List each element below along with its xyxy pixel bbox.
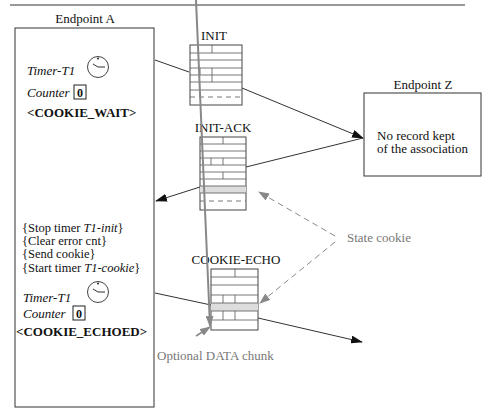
- state-label: <COOKIE_WAIT>: [27, 105, 136, 120]
- cookie-echo-packet: COOKIE-ECHO: [192, 252, 281, 330]
- init-ack-arrow-segment-a: [246, 138, 363, 167]
- cookie-echo-label: COOKIE-ECHO: [192, 252, 281, 267]
- endpoint-z-title: Endpoint Z: [394, 77, 453, 92]
- echoed-cookie-field: [211, 303, 258, 311]
- counter-label: Counter: [27, 85, 71, 100]
- action-clear-error: {Clear error cnt}: [22, 234, 107, 248]
- init-arrow: [242, 88, 363, 138]
- action-send-cookie: {Send cookie}: [22, 247, 95, 261]
- cookie-echo-arrow-segment-a: [155, 293, 211, 305]
- clock-icon: [88, 57, 109, 78]
- init-ack-label: INIT-ACK: [195, 120, 252, 135]
- endpoint-a-actions: {Stop timer T1-init} {Clear error cnt} {…: [22, 221, 140, 275]
- optional-data-pointer-line: [196, 327, 210, 336]
- endpoint-a-state-wait: Timer-T1 Counter 0 <COOKIE_WAIT>: [27, 57, 136, 121]
- action-start-timer: {Start timer T1-cookie}: [22, 261, 140, 275]
- counter-label: Counter: [23, 306, 67, 321]
- endpoint-a: Endpoint A Timer-T1 Counter 0 <COOKIE_WA…: [15, 11, 154, 407]
- endpoint-a-title: Endpoint A: [55, 11, 115, 26]
- endpoint-a-state-echoed: Timer-T1 Counter 0 <COOKIE_ECHOED>: [16, 282, 147, 340]
- init-label: INIT: [201, 28, 227, 43]
- timer-label: Timer-T1: [27, 63, 75, 78]
- state-cookie-annotation: State cookie: [259, 192, 411, 303]
- state-label: <COOKIE_ECHOED>: [16, 324, 147, 339]
- state-cookie-field: [200, 186, 246, 193]
- init-arrow-segment-a: [155, 60, 189, 72]
- cookie-echo-arrow: [258, 318, 362, 342]
- optional-data-label: Optional DATA chunk: [157, 348, 274, 363]
- clock-icon: [88, 282, 109, 303]
- endpoint-z: Endpoint Z No record kept of the associa…: [364, 77, 481, 176]
- state-cookie-label: State cookie: [347, 230, 411, 245]
- sctp-handshake-diagram: Endpoint A Timer-T1 Counter 0 <COOKIE_WA…: [0, 0, 491, 415]
- state-cookie-pointer-upper: [259, 192, 335, 236]
- endpoint-z-note-line2: of the association: [377, 141, 468, 156]
- action-stop-timer: {Stop timer T1-init}: [22, 221, 124, 235]
- timer-label: Timer-T1: [23, 290, 71, 305]
- counter-value: 0: [76, 307, 82, 321]
- init-ack-arrow: [156, 187, 200, 201]
- counter-value: 0: [77, 86, 83, 100]
